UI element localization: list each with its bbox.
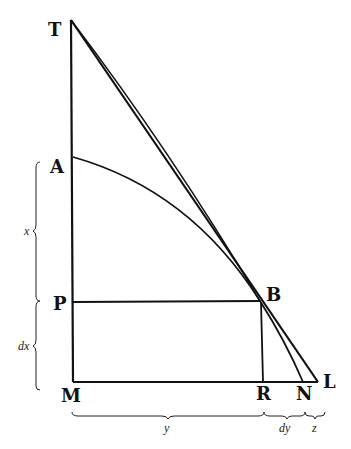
brace-z: [305, 412, 325, 419]
label-P: P: [53, 293, 67, 314]
label-A: A: [49, 156, 65, 177]
brace-label-y: y: [163, 421, 170, 435]
label-N: N: [296, 383, 312, 404]
label-M: M: [61, 385, 81, 406]
label-T: T: [48, 19, 62, 40]
brace-x: [33, 162, 40, 301]
brace-label-z: z: [311, 421, 317, 435]
tangent-TL: [71, 20, 318, 382]
segment-BR: [261, 302, 263, 382]
brace-y: [72, 412, 264, 419]
geometry-diagram: T A P M B R N L x dx y dy z: [0, 0, 351, 449]
axis-TM: [71, 20, 73, 382]
label-R: R: [256, 383, 272, 404]
brace-label-dy: dy: [279, 421, 291, 435]
brace-dx: [33, 301, 40, 390]
label-B: B: [266, 284, 281, 305]
brace-label-x: x: [23, 224, 30, 238]
brace-label-dx: dx: [18, 339, 30, 353]
segment-PB: [73, 301, 260, 302]
label-L: L: [323, 371, 336, 392]
brace-dy: [264, 412, 305, 419]
